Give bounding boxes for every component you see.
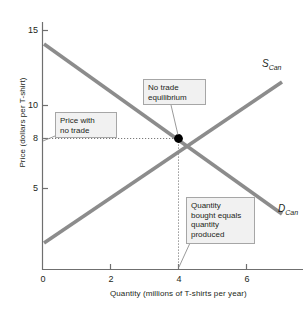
annotation-line: Quantity [191,201,250,211]
y-tick-label-10: 10 [16,100,38,110]
x-tick-label-4: 4 [169,274,189,284]
demand-curve-label-subscript: Can [285,209,298,216]
annotation-line: No trade [148,83,201,93]
annotation-price-with-no-trade: Price with no trade [55,112,117,138]
annotation-line: no trade [60,126,112,136]
annotation-line: bought equals [191,211,250,221]
x-tick-label-0: 0 [33,274,53,284]
chart-canvas [0,0,308,309]
x-axis-title: Quantity (millions of T-shirts per year) [110,289,306,298]
x-tick-label-6: 6 [237,274,257,284]
y-tick-label-8: 8 [16,133,38,143]
x-tick-label-2: 2 [101,274,121,284]
y-tick-label-15: 15 [16,25,38,35]
supply-curve-label-subscript: Can [269,64,282,71]
leader-line-quantity-bought [179,243,190,267]
annotation-line: produced [191,230,250,240]
annotation-line: equilibrium [148,93,201,103]
y-axis-title: Price (dollars per T-shirt) [18,63,27,183]
supply-curve-label-symbol: S [262,58,269,69]
annotation-line: quantity [191,220,250,230]
annotation-no-trade-equilibrium: No trade equilibrium [143,79,206,105]
y-tick-marks [43,31,49,189]
supply-curve-label: SCan [262,58,282,71]
y-tick-label-5: 5 [16,183,38,193]
supply-demand-chart: Price (dollars per T-shirt) Quantity (mi… [0,0,308,309]
annotation-line: Price with [60,116,112,126]
demand-curve-label: DCan [278,203,298,216]
annotation-quantity-bought-equals-quantity-produced: Quantity bought equals quantity produced [186,197,255,244]
equilibrium-point [174,134,183,143]
leader-line-no-trade-equilibrium [171,105,178,135]
